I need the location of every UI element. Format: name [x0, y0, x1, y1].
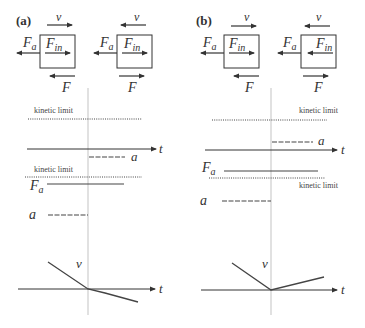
velocity-curve — [232, 263, 324, 290]
v-label: v — [244, 10, 250, 24]
kinetic-limit-label: kinetic limit — [299, 181, 339, 190]
a-plot-label: a — [200, 193, 207, 208]
t-axis-label: t — [159, 281, 163, 296]
a-plot-label: a — [29, 207, 36, 222]
v-label: v — [316, 10, 322, 24]
f-label: F — [244, 80, 254, 95]
fa-label: Fa — [22, 35, 37, 52]
fin-label: Fin — [315, 36, 332, 53]
kinetic-limit-label: kinetic limit — [34, 165, 74, 174]
free-body-box-a2: v Fa Fin F — [94, 10, 152, 95]
v-axis-label: v — [262, 256, 268, 271]
panel-label-b: (b) — [196, 13, 212, 28]
v-label: v — [56, 10, 62, 24]
fa-plot-label: Fa — [201, 160, 216, 177]
fa-label: Fa — [202, 35, 217, 52]
fin-label: Fin — [45, 36, 62, 53]
a-label: a — [318, 133, 325, 148]
panel-label-a: (a) — [16, 13, 31, 28]
figure-canvas: (a) v Fa Fin F v Fa Fin F kin — [0, 0, 365, 328]
kinetic-limit-label: kinetic limit — [299, 106, 339, 115]
fa-plot-label: Fa — [29, 178, 44, 195]
panel-b: (b) v Fa Fin F v Fa Fin F kin — [196, 10, 345, 315]
fin-label: Fin — [123, 36, 140, 53]
t-axis-label: t — [341, 282, 345, 297]
v-label: v — [134, 10, 140, 24]
panel-a: (a) v Fa Fin F v Fa Fin F kin — [16, 10, 163, 315]
velocity-curve — [48, 262, 138, 302]
t-axis-label: t — [341, 142, 345, 157]
f-label: F — [61, 80, 71, 95]
fin-label: Fin — [228, 36, 245, 53]
v-axis-label: v — [76, 256, 82, 271]
free-body-box-b2: v Fa Fin F — [278, 10, 336, 95]
fa-label: Fa — [99, 35, 114, 52]
t-axis-label: t — [159, 141, 163, 156]
a-label: a — [131, 149, 138, 164]
f-label: F — [313, 80, 323, 95]
kinetic-limit-label: kinetic limit — [34, 106, 74, 115]
f-label: F — [127, 80, 137, 95]
fa-label: Fa — [282, 35, 297, 52]
